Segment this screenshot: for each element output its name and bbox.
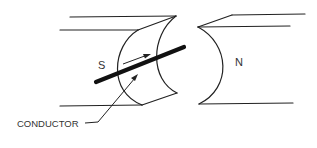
- north-magnet-upper-edge: [198, 26, 290, 27]
- north-magnet-top-bevel: [198, 15, 232, 27]
- conductor-rod: [96, 47, 184, 82]
- south-pole-label: S: [98, 59, 105, 71]
- north-magnet-bottom-edge: [199, 103, 293, 104]
- conductor-label: CONDUCTOR: [17, 118, 79, 129]
- south-pole-magnet: [60, 16, 177, 106]
- north-pole-magnet: [198, 14, 305, 104]
- south-magnet-bottom-bevel: [142, 93, 177, 105]
- magnet-conductor-diagram: S N CONDUCTOR: [0, 0, 317, 148]
- south-magnet-top-bevel: [138, 16, 176, 30]
- south-magnet-top-edge: [70, 16, 176, 17]
- south-magnet-bottom-edge: [60, 105, 142, 106]
- north-pole-label: N: [235, 56, 243, 68]
- north-pole-face: [198, 27, 223, 104]
- north-magnet-top-edge: [232, 14, 305, 15]
